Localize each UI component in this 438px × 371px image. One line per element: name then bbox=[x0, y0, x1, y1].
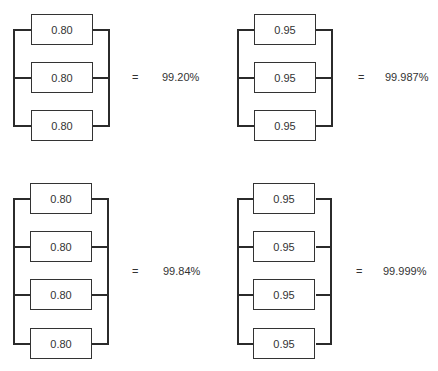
equals-sign: = bbox=[132, 265, 138, 277]
wire bbox=[237, 246, 254, 248]
component-box: 0.80 bbox=[30, 328, 92, 359]
left-rail bbox=[237, 198, 239, 345]
wire bbox=[316, 77, 333, 79]
wire bbox=[93, 125, 110, 127]
component-box: 0.95 bbox=[254, 110, 316, 141]
component-box: 0.95 bbox=[253, 231, 315, 262]
reliability-result: 99.987% bbox=[385, 71, 428, 83]
component-box: 0.95 bbox=[253, 279, 315, 310]
wire bbox=[13, 77, 31, 79]
component-box: 0.80 bbox=[30, 231, 92, 262]
right-rail bbox=[107, 198, 109, 345]
wire bbox=[93, 77, 110, 79]
wire bbox=[316, 125, 333, 127]
component-box: 0.95 bbox=[254, 62, 316, 93]
wire bbox=[92, 294, 109, 296]
wire bbox=[13, 294, 31, 296]
wire bbox=[13, 246, 31, 248]
component-box: 0.80 bbox=[31, 110, 93, 141]
wire bbox=[237, 198, 254, 200]
right-rail bbox=[330, 198, 332, 345]
reliability-result: 99.84% bbox=[163, 265, 200, 277]
wire bbox=[92, 343, 109, 345]
component-box: 0.80 bbox=[30, 183, 92, 214]
wire bbox=[237, 29, 254, 31]
equals-sign: = bbox=[132, 71, 138, 83]
component-box: 0.80 bbox=[30, 279, 92, 310]
component-box: 0.95 bbox=[253, 328, 315, 359]
wire bbox=[13, 29, 31, 31]
component-box: 0.80 bbox=[31, 14, 93, 45]
wire bbox=[92, 198, 109, 200]
wire bbox=[237, 77, 254, 79]
wire bbox=[316, 29, 333, 31]
component-box: 0.95 bbox=[254, 14, 316, 45]
wire bbox=[316, 294, 332, 296]
wire bbox=[237, 343, 254, 345]
left-rail bbox=[13, 198, 15, 345]
wire bbox=[13, 125, 31, 127]
wire bbox=[237, 125, 254, 127]
reliability-result: 99.20% bbox=[162, 71, 199, 83]
component-box: 0.95 bbox=[253, 183, 315, 214]
wire bbox=[13, 198, 31, 200]
equals-sign: = bbox=[358, 71, 364, 83]
wire bbox=[316, 343, 332, 345]
wire bbox=[237, 294, 254, 296]
wire bbox=[93, 29, 110, 31]
wire bbox=[316, 246, 332, 248]
wire bbox=[316, 198, 332, 200]
component-box: 0.80 bbox=[31, 62, 93, 93]
equals-sign: = bbox=[356, 265, 362, 277]
reliability-result: 99.999% bbox=[383, 265, 426, 277]
wire bbox=[92, 246, 109, 248]
wire bbox=[13, 343, 31, 345]
